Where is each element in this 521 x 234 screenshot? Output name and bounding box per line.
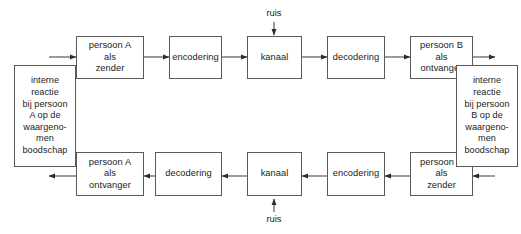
- node-decodering-bottom[interactable]: decodering: [155, 152, 222, 196]
- node-persoon-a-zender[interactable]: persoon A als zender: [76, 36, 144, 79]
- node-persoon-a-ontvanger[interactable]: persoon A als ontvanger: [76, 152, 144, 196]
- node-interne-reactie-persoon-b[interactable]: interne reactie bij persoon B op de waar…: [456, 65, 518, 167]
- node-encodering-top[interactable]: encodering: [169, 36, 222, 79]
- label-ruis-bottom: ruis: [254, 214, 294, 225]
- node-interne-reactie-persoon-a[interactable]: interne reactie bij persoon A op de waar…: [14, 65, 76, 167]
- node-encodering-bottom[interactable]: encodering: [327, 152, 385, 196]
- node-kanaal-top[interactable]: kanaal: [247, 36, 302, 79]
- node-decodering-top[interactable]: decodering: [327, 36, 385, 79]
- node-kanaal-bottom[interactable]: kanaal: [247, 152, 302, 196]
- label-ruis-top: ruis: [254, 8, 294, 19]
- communication-model-diagram: persoon A als zender encodering kanaal d…: [0, 0, 521, 234]
